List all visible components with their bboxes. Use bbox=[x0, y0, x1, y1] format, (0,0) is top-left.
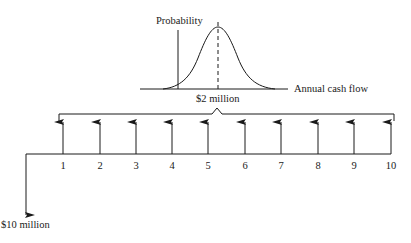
period-label: 8 bbox=[315, 161, 320, 172]
probability-label: Probability bbox=[156, 16, 203, 27]
period-label: 5 bbox=[205, 161, 210, 172]
annual-cash-flow-label: Annual cash flow bbox=[294, 84, 368, 95]
period-label: 9 bbox=[351, 161, 356, 172]
normal-curve bbox=[163, 27, 275, 89]
period-label: 1 bbox=[60, 161, 65, 172]
period-label: 7 bbox=[278, 161, 283, 172]
cash-flow-diagram bbox=[0, 0, 411, 243]
period-label: 2 bbox=[97, 161, 102, 172]
probability-distribution bbox=[140, 22, 288, 89]
period-label: 4 bbox=[169, 161, 174, 172]
outflow-label: $10 million bbox=[1, 220, 50, 231]
period-label: 10 bbox=[386, 161, 397, 172]
period-label: 6 bbox=[242, 161, 247, 172]
mean-value-label: $2 million bbox=[196, 94, 239, 105]
period-label: 3 bbox=[133, 161, 138, 172]
inflow-brace bbox=[59, 108, 394, 121]
